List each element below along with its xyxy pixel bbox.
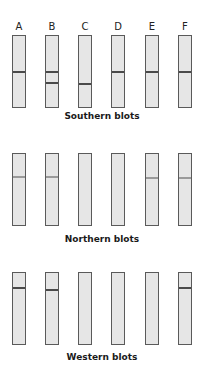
band — [46, 71, 58, 73]
lane-label-f: F — [175, 22, 195, 32]
lane-f — [178, 272, 192, 345]
southern-blots-title: Southern blots — [0, 111, 204, 121]
lane-e — [145, 272, 159, 345]
band — [112, 71, 124, 73]
lane-b — [45, 153, 59, 226]
lane-b — [45, 35, 59, 108]
lane-a — [12, 35, 26, 108]
western-blots-title: Western blots — [0, 352, 204, 362]
northern-blots-title: Northern blots — [0, 234, 204, 244]
band — [13, 176, 25, 178]
band — [13, 71, 25, 73]
band — [13, 287, 25, 289]
lane-label-c: C — [75, 22, 95, 32]
lane-f — [178, 35, 192, 108]
band — [46, 289, 58, 291]
band — [179, 177, 191, 179]
lane-c — [78, 272, 92, 345]
lane-c — [78, 35, 92, 108]
band — [179, 287, 191, 289]
lane-d — [111, 35, 125, 108]
lane-a — [12, 272, 26, 345]
lane-e — [145, 35, 159, 108]
lane-a — [12, 153, 26, 226]
band — [46, 82, 58, 84]
lane-d — [111, 272, 125, 345]
band — [146, 71, 158, 73]
lane-e — [145, 153, 159, 226]
band — [79, 83, 91, 85]
lane-label-b: B — [42, 22, 62, 32]
lane-f — [178, 153, 192, 226]
band — [46, 176, 58, 178]
lane-c — [78, 153, 92, 226]
lane-label-a: A — [9, 22, 29, 32]
lane-label-e: E — [142, 22, 162, 32]
lane-d — [111, 153, 125, 226]
band — [179, 71, 191, 73]
lane-label-d: D — [108, 22, 128, 32]
cropped-caption — [0, 0, 90, 2]
lane-b — [45, 272, 59, 345]
band — [146, 177, 158, 179]
